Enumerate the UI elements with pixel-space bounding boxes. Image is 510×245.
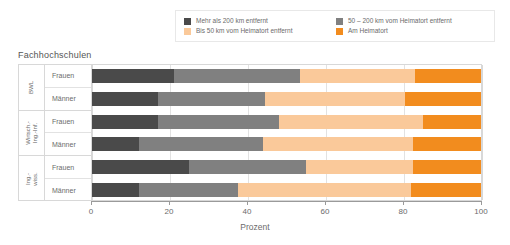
group-label-bwl: BWL [28, 81, 35, 94]
bar-segment [92, 137, 139, 151]
bar-segment [415, 69, 481, 83]
legend-item-50-200km: 50 – 200 km vom Heimatort entfernt [336, 17, 452, 25]
legend-row-1: Mehr als 200 km entfernt 50 – 200 km vom… [184, 17, 488, 25]
chart-title: Fachhochschulen [18, 50, 92, 60]
group-cell-ing-wiss: Ing.- wiss. [19, 156, 44, 202]
x-tick [481, 201, 482, 205]
x-tick [91, 201, 92, 205]
legend-label-50-200km: 50 – 200 km vom Heimatort entfernt [348, 17, 452, 25]
series-label-column: Frauen Männer Frauen Männer Frauen Männe… [45, 65, 92, 200]
legend-swatch-am-heimatort [336, 28, 343, 35]
bar-row [92, 88, 481, 111]
x-tick [403, 201, 404, 205]
x-tick-label: 80 [399, 207, 408, 216]
bar-segment [300, 69, 415, 83]
bar-segment [158, 115, 279, 129]
group-label-ing-wiss: Ing.- wiss. [25, 172, 39, 185]
bar-segment [92, 160, 189, 174]
legend-swatch-bis-50km [184, 28, 191, 35]
x-tick-label: 20 [165, 207, 174, 216]
x-tick-label: 0 [89, 207, 93, 216]
legend-item-mehr-als-200km: Mehr als 200 km entfernt [184, 17, 336, 25]
bar-rows [92, 65, 481, 202]
legend-swatch-mehr-als-200km [184, 18, 191, 25]
legend-label-bis-50km: Bis 50 km vom Heimatort entfernt [196, 27, 292, 35]
series-label-ingwiss-maenner: Männer [45, 179, 91, 202]
x-tick [169, 201, 170, 205]
bar-segment [92, 183, 139, 197]
bar-segment [189, 160, 306, 174]
group-cell-bwl: BWL [19, 65, 44, 111]
bar-segment [139, 183, 238, 197]
bar-row [92, 133, 481, 156]
x-tick-label: 100 [474, 207, 487, 216]
bar-segment [411, 183, 481, 197]
bar-segment [279, 115, 423, 129]
bar-segment [413, 137, 481, 151]
x-axis-line: 020406080100 [91, 201, 481, 202]
legend-swatch-50-200km [336, 18, 343, 25]
series-label-bwl-frauen: Frauen [45, 65, 91, 88]
x-tick [325, 201, 326, 205]
stacked-bar [92, 115, 481, 129]
bar-segment [174, 69, 300, 83]
series-label-bwl-maenner: Männer [45, 88, 91, 111]
group-label-ingwiss-line2: wiss. [32, 172, 38, 185]
x-tick-label: 40 [243, 207, 252, 216]
bar-segment [405, 92, 481, 106]
plot-area: BWL Wirtsch.- Ing.-Inf. Ing.- wiss. Frau… [18, 64, 482, 201]
stacked-bar [92, 183, 481, 197]
series-label-wirtsch-frauen: Frauen [45, 111, 91, 134]
legend-item-bis-50km: Bis 50 km vom Heimatort entfernt [184, 27, 336, 35]
x-tick-label: 60 [321, 207, 330, 216]
series-label-wirtsch-maenner: Männer [45, 133, 91, 156]
group-label-wirtsch-line2: Ing.-Inf. [31, 123, 37, 143]
group-label-wirtsch-line1: Wirtsch.- [24, 121, 30, 145]
stacked-bar [92, 69, 481, 83]
series-label-ingwiss-frauen: Frauen [45, 156, 91, 179]
bar-segment [92, 115, 158, 129]
bar-segment [139, 137, 263, 151]
stacked-bar [92, 92, 481, 106]
x-axis-title: Prozent [0, 222, 510, 232]
bar-segment [158, 92, 265, 106]
legend-label-am-heimatort: Am Heimatort [348, 27, 388, 35]
legend-row-2: Bis 50 km vom Heimatort entfernt Am Heim… [184, 27, 488, 35]
bar-segment [263, 137, 413, 151]
bar-row [92, 156, 481, 179]
chart-legend: Mehr als 200 km entfernt 50 – 200 km vom… [175, 10, 495, 42]
stacked-bar [92, 160, 481, 174]
bar-segment [306, 160, 413, 174]
legend-item-am-heimatort: Am Heimatort [336, 27, 388, 35]
group-label-ingwiss-line1: Ing.- [25, 173, 31, 185]
bar-row [92, 179, 481, 202]
gridline-100 [482, 65, 483, 200]
bar-segment [92, 69, 174, 83]
group-label-wirtsch-ing-inf: Wirtsch.- Ing.-Inf. [24, 121, 38, 145]
bar-segment [238, 183, 411, 197]
bar-segment [413, 160, 481, 174]
bar-segment [92, 92, 158, 106]
stacked-bar [92, 137, 481, 151]
group-cell-wirtsch-ing-inf: Wirtsch.- Ing.-Inf. [19, 111, 44, 157]
bar-row [92, 111, 481, 134]
bar-segment [265, 92, 405, 106]
group-label-column: BWL Wirtsch.- Ing.-Inf. Ing.- wiss. [19, 65, 45, 200]
group-label-bwl-line1: BWL [28, 81, 34, 94]
x-tick [247, 201, 248, 205]
bar-row [92, 65, 481, 88]
bar-segment [423, 115, 481, 129]
bars-area [92, 65, 481, 200]
legend-label-mehr-als-200km: Mehr als 200 km entfernt [196, 17, 268, 25]
